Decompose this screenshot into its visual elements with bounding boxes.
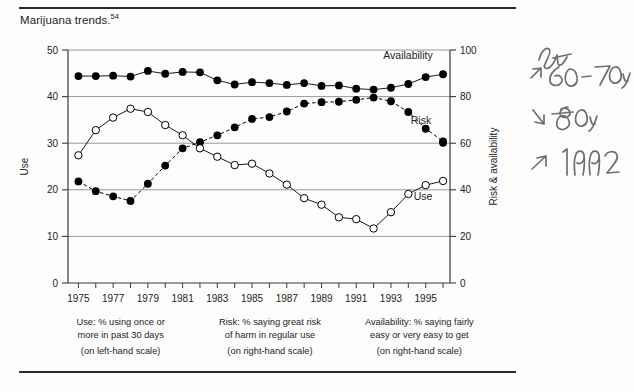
datapoint-availability-1979 [144,67,152,75]
series-availability [75,67,447,93]
xtick-label-1983: 1983 [206,293,229,304]
datapoint-use-1977 [109,114,116,121]
xtick-label-1985: 1985 [241,293,264,304]
ytick-label-left-0: 0 [52,278,58,289]
datapoint-availability-1996 [439,70,447,78]
datapoint-risk-1985 [248,115,256,123]
datapoint-risk-1984 [231,123,239,131]
risk-caption-scale: (on right-hand scale) [195,345,344,358]
datapoint-risk-1990 [335,98,343,106]
marijuana-trends-chart: 0102030405002040608010019751977197919811… [0,0,520,310]
datapoint-use-1990 [335,214,342,221]
ytick-label-left-30: 30 [47,138,59,149]
ytick-label-left-50: 50 [47,45,59,56]
ytick-label-right-20: 20 [460,231,472,242]
datapoint-risk-1977 [109,192,117,200]
datapoint-use-1996 [439,177,446,184]
datapoint-use-1995 [422,181,429,188]
xtick-label-1991: 1991 [345,293,368,304]
bottom-rule [19,371,516,373]
datapoint-availability-1995 [422,73,430,81]
xtick-label-1993: 1993 [380,293,403,304]
caption-row: Use: % using once or more in past 30 day… [46,316,494,359]
datapoint-risk-1991 [352,96,360,104]
datapoint-use-1975 [75,152,82,159]
use-caption-line1: Use: % using once or [76,317,164,327]
series-label-risk: Risk [411,114,432,126]
use-caption-line2: more in past 30 days [78,330,164,340]
datapoint-availability-1978 [127,73,135,81]
datapoint-use-1986 [266,170,273,177]
datapoint-use-1987 [283,181,290,188]
datapoint-risk-1976 [92,187,100,195]
datapoint-risk-1988 [300,100,308,108]
series-label-use: Use [414,190,433,202]
use-caption-scale: (on left-hand scale) [46,345,195,358]
datapoint-availability-1984 [231,81,239,89]
datapoint-availability-1994 [404,80,412,88]
availability-caption-line2: easy or very easy to get [370,330,469,340]
handwritten-annotation [527,36,631,206]
datapoint-risk-1986 [266,113,274,121]
datapoint-availability-1988 [300,79,308,87]
xtick-label-1987: 1987 [276,293,299,304]
datapoint-availability-1985 [248,78,256,86]
datapoint-availability-1986 [266,79,274,87]
datapoint-availability-1987 [283,81,291,89]
datapoint-availability-1990 [335,82,343,90]
datapoint-availability-1989 [318,82,326,90]
datapoint-risk-1996 [439,139,447,147]
ytick-label-right-80: 80 [460,91,472,102]
datapoint-risk-1981 [179,144,187,152]
datapoint-use-1993 [387,208,394,215]
xtick-label-1979: 1979 [137,293,160,304]
datapoint-risk-1989 [318,98,326,106]
datapoint-use-1983 [214,153,221,160]
datapoint-risk-1987 [283,108,291,116]
ytick-label-left-10: 10 [47,231,59,242]
availability-caption: Availability: % saying fairly easy or ve… [345,316,494,359]
datapoint-use-1985 [248,160,255,167]
datapoint-availability-1976 [92,72,100,80]
series-line-risk [78,98,443,201]
chart-container: 0102030405002040608010019751977197919811… [0,0,520,310]
xtick-label-1977: 1977 [102,293,125,304]
handwriting-svg [527,36,631,206]
datapoint-availability-1992 [370,86,378,94]
datapoint-use-1989 [318,201,325,208]
datapoint-availability-1977 [109,72,117,80]
datapoint-use-1979 [144,108,151,115]
datapoint-risk-1980 [161,162,169,170]
ytick-label-right-60: 60 [460,138,472,149]
datapoint-use-1991 [353,215,360,222]
datapoint-availability-1980 [161,70,169,78]
figure-page: Marijuana trends.54 01020304050020406080… [0,0,634,392]
ytick-label-left-40: 40 [47,91,59,102]
datapoint-availability-1975 [75,72,83,80]
xtick-label-1989: 1989 [310,293,333,304]
datapoint-risk-1993 [387,97,395,105]
datapoint-use-1981 [179,132,186,139]
datapoint-risk-1975 [75,178,83,186]
datapoint-use-1980 [162,121,169,128]
datapoint-availability-1993 [387,84,395,92]
datapoint-risk-1983 [213,131,221,139]
datapoint-use-1982 [196,145,203,152]
datapoint-risk-1992 [370,94,378,102]
datapoint-use-1984 [231,161,238,168]
ytick-label-left-20: 20 [47,184,59,195]
datapoint-risk-1979 [144,180,152,188]
xtick-label-1995: 1995 [415,293,438,304]
risk-caption-line1: Risk: % saying great risk [219,317,321,327]
series-label-availability: Availability [383,49,433,61]
ytick-label-right-40: 40 [460,184,472,195]
datapoint-use-1988 [300,194,307,201]
datapoint-availability-1981 [179,68,187,76]
xtick-label-1981: 1981 [171,293,194,304]
xtick-label-1975: 1975 [67,293,90,304]
use-caption: Use: % using once or more in past 30 day… [46,316,195,359]
ytick-label-right-100: 100 [460,45,477,56]
datapoint-risk-1978 [127,197,135,205]
availability-caption-line1: Availability: % saying fairly [365,317,474,327]
risk-caption-line2: of harm in regular use [225,330,315,340]
